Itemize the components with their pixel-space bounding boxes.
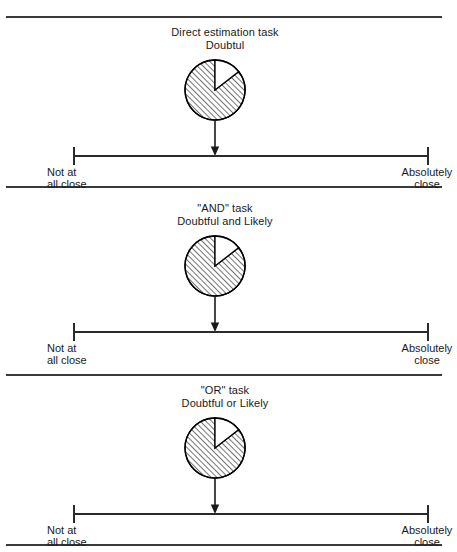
panel-direct-estimation: Direct estimation task Doubtul [0,18,450,186]
scale-tick-right [427,505,429,523]
panel-title-line1: Direct estimation task [0,26,450,39]
scale-label-left: Not at all close [47,524,87,548]
scale-label-right: Absolutely close [385,166,457,190]
rating-scale: Not at all close Absolutely close [0,144,450,188]
scale-label-right-line1: Absolutely [385,166,457,178]
panel-or-task: "OR" task Doubtful or Likely [0,376,450,544]
pie-chart [183,58,247,122]
scale-label-left: Not at all close [47,166,87,190]
pie-chart-svg [183,234,247,298]
scale-label-left-line1: Not at [47,524,87,536]
scale-label-right: Absolutely close [385,342,457,366]
panel-title-line2: Doubtful or Likely [0,397,450,410]
scale-label-right: Absolutely close [385,524,457,548]
panel-title-line1: "AND" task [0,202,450,215]
scale-label-left: Not at all close [47,342,87,366]
panel-title-block: "AND" task Doubtful and Likely [0,202,450,228]
scale-label-left-line1: Not at [47,166,87,178]
scale-label-right-line2: close [385,354,457,366]
pie-chart [183,234,247,298]
pie-chart [183,416,247,480]
panel-and-task: "AND" task Doubtful and Likely [0,188,450,374]
rating-scale: Not at all close Absolutely close [0,502,450,546]
panel-title-line1: "OR" task [0,384,450,397]
scale-axis-line [73,513,428,515]
scale-tick-left [73,147,75,165]
rating-scale: Not at all close Absolutely close [0,320,450,364]
scale-axis-line [73,155,428,157]
scale-label-right-line1: Absolutely [385,524,457,536]
scale-label-left-line2: all close [47,536,87,548]
pie-chart-svg [183,416,247,480]
panel-title-block: Direct estimation task Doubtul [0,26,450,52]
scale-tick-right [427,147,429,165]
scale-tick-left [73,323,75,341]
panel-title-line2: Doubtul [0,39,450,52]
scale-axis-line [73,331,428,333]
scale-label-right-line1: Absolutely [385,342,457,354]
pie-chart-svg [183,58,247,122]
scale-label-right-line2: close [385,536,457,548]
scale-label-left-line1: Not at [47,342,87,354]
panel-title-block: "OR" task Doubtful or Likely [0,384,450,410]
scale-tick-left [73,505,75,523]
scale-label-left-line2: all close [47,354,87,366]
scale-tick-right [427,323,429,341]
panel-title-line2: Doubtful and Likely [0,215,450,228]
